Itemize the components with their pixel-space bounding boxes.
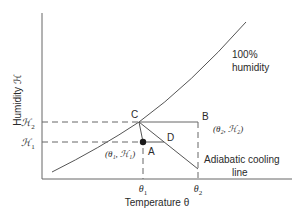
y-tick-h2: ℋ2	[21, 117, 35, 131]
x-tick-theta1: θ1	[139, 183, 148, 197]
point-a-dot	[140, 139, 146, 145]
x-tick-theta2: θ2	[194, 183, 203, 197]
adiabatic-label-line1: Adiabatic cooling	[204, 154, 280, 165]
curve-label-line2: humidity	[232, 62, 269, 73]
y-tick-h1: ℋ1	[21, 137, 35, 151]
point-d-label: D	[167, 132, 174, 143]
adiabatic-label-line2: line	[232, 167, 248, 178]
point-b-coords: (θ₂, ℋ₂)	[213, 124, 243, 134]
point-a-label: A	[148, 146, 155, 157]
psychrometric-diagram: Humidity ℋ ℋ2 ℋ1 θ1 θ2 Temperature θ 100…	[0, 0, 305, 214]
point-a-coords: (θ₁, ℋ₁)	[105, 149, 135, 159]
curve-label-line1: 100%	[232, 49, 258, 60]
point-c-label: C	[131, 109, 138, 120]
x-axis-label: Temperature θ	[125, 197, 190, 208]
point-b-label: B	[202, 111, 209, 122]
